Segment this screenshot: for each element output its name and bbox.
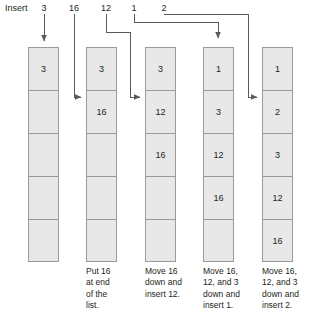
cell-2-1: 3 [86,47,117,90]
column-5: 1 2 3 12 16 [262,47,293,262]
cell-4-3: 12 [203,133,234,176]
arrow-insert-1 [134,14,218,38]
cell-2-4 [86,176,117,219]
caption-column-3: Move 16 down and insert 12. [145,266,193,300]
insertion-sort-diagram: Insert 3 16 12 1 2 3 [0,0,309,326]
cell-3-2: 12 [145,90,176,133]
column-2: 3 16 [86,47,117,262]
cell-5-4: 12 [262,176,293,219]
cell-1-2 [28,90,59,133]
cell-5-2: 2 [262,90,293,133]
cell-5-5: 16 [262,219,293,262]
cell-2-5 [86,219,117,262]
cell-4-4: 16 [203,176,234,219]
caption-column-5: Move 16, 12, and 3 down and insert 2. [262,266,309,312]
cell-4-5 [203,219,234,262]
cell-1-5 [28,219,59,262]
cell-1-4 [28,176,59,219]
cell-5-3: 3 [262,133,293,176]
cell-1-1: 3 [28,47,59,90]
cell-3-4 [145,176,176,219]
caption-column-4: Move 16, 12, and 3 down and insert 1. [203,266,251,312]
cell-4-1: 1 [203,47,234,90]
cell-5-1: 1 [262,47,293,90]
cell-4-2: 3 [203,90,234,133]
cell-2-2: 16 [86,90,117,133]
cell-3-3: 16 [145,133,176,176]
cell-3-1: 3 [145,47,176,90]
arrow-insert-16 [74,14,81,97]
column-3: 3 12 16 [145,47,176,262]
column-4: 1 3 12 16 [203,47,234,262]
cell-3-5 [145,219,176,262]
column-1: 3 [28,47,59,262]
cell-1-3 [28,133,59,176]
cell-2-3 [86,133,117,176]
caption-column-2: Put 16 at end of the list. [86,266,134,312]
